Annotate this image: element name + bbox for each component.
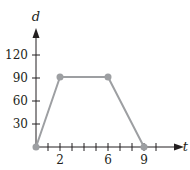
y-tick-label-90: 90 <box>13 71 28 85</box>
x-tick-label-6: 6 <box>104 153 112 167</box>
data-points <box>33 74 148 151</box>
data-point-6 <box>105 74 112 81</box>
data-point-0 <box>33 144 40 151</box>
x-tick-label-2: 2 <box>56 153 64 167</box>
x-tick-label-9: 9 <box>140 153 148 167</box>
data-point-9 <box>141 144 148 151</box>
y-axis-label: d <box>32 9 40 24</box>
y-tick-label-120: 120 <box>5 48 28 62</box>
data-line <box>36 77 144 147</box>
y-tick-label-30: 30 <box>13 117 28 131</box>
axes <box>36 36 176 147</box>
distance-time-chart: 2 6 9 30 60 90 120 d t <box>0 0 190 170</box>
x-axis-label: t <box>183 139 189 154</box>
y-tick-label-60: 60 <box>13 94 28 108</box>
data-point-2 <box>57 74 64 81</box>
y-axis-arrow-icon <box>33 28 40 38</box>
